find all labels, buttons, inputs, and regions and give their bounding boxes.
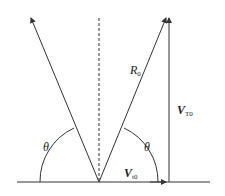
theta-right-label: θ xyxy=(144,141,150,153)
theta-left-label: θ xyxy=(43,141,49,153)
left-angle-arc xyxy=(40,128,74,182)
r0-ray-arrow xyxy=(99,18,166,182)
diagram-canvas xyxy=(0,0,225,196)
r0-label: R0 xyxy=(130,64,141,78)
left-ray-arrow xyxy=(31,18,99,182)
vertical-vector-label: VT0 xyxy=(177,104,193,118)
horizontal-vector-label: Vt0 xyxy=(124,167,137,181)
